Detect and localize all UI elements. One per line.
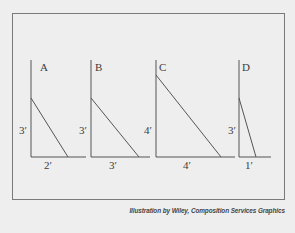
triangle-b-height-label: 3′: [79, 125, 87, 136]
figure-frame: [13, 14, 285, 200]
triangle-c-height-label: 4′: [144, 125, 152, 136]
triangle-b-hypotenuse: [91, 98, 139, 157]
triangle-c-hypotenuse: [156, 75, 221, 157]
triangle-b-letter: B: [95, 62, 102, 73]
triangle-d-hypotenuse: [239, 98, 256, 157]
triangle-a-height-label: 3′: [19, 125, 27, 136]
triangle-d-height-label: 3′: [228, 125, 236, 136]
triangle-a-base-label: 2′: [44, 160, 52, 171]
illustration-canvas: A B C D 3′ 3′ 4′ 3′ 2′ 3′ 4′ 1′ Illustra…: [0, 0, 295, 233]
triangle-c: [156, 60, 235, 157]
triangle-d-base-label: 1′: [245, 160, 253, 171]
triangle-c-letter: C: [159, 62, 166, 73]
triangle-a: [31, 60, 86, 157]
triangle-a-hypotenuse: [31, 98, 68, 157]
triangle-d: [239, 60, 271, 157]
triangle-diagram: [0, 0, 295, 233]
triangle-b-base-label: 3′: [109, 160, 117, 171]
triangle-a-letter: A: [40, 62, 48, 73]
illustration-credit-caption: Illustration by Wiley, Composition Servi…: [130, 206, 285, 215]
triangle-b: [91, 60, 150, 157]
triangle-c-base-label: 4′: [183, 160, 191, 171]
triangle-d-letter: D: [242, 62, 250, 73]
